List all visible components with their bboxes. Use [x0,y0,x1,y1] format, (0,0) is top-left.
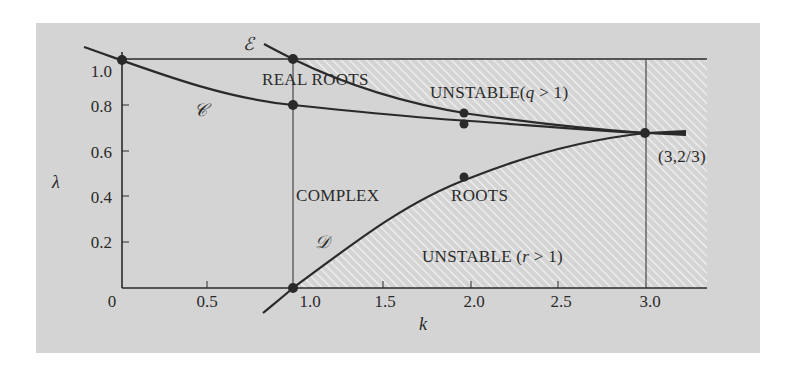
svg-text:0.5: 0.5 [196,292,217,311]
point-2-d [460,173,469,182]
point-1-1 [288,54,298,64]
svg-text:0: 0 [108,292,117,311]
svg-text:2.0: 2.0 [463,292,484,311]
roots-label: ROOTS [451,186,508,205]
point-1-08 [288,100,298,110]
svg-text:0.4: 0.4 [91,188,113,207]
point-0-1 [117,55,127,65]
svg-text:3.0: 3.0 [639,292,660,311]
curve-e-label: ℰ [243,34,256,54]
point-2-e [460,109,469,118]
y-tick-labels: 0.2 0.4 0.6 0.8 1.0 [91,62,113,252]
svg-text:1.0: 1.0 [91,62,112,81]
svg-text:0.8: 0.8 [91,97,112,116]
unstable-r-label: UNSTABLE (r > 1) [422,247,563,266]
svg-text:1.5: 1.5 [374,292,395,311]
y-axis-label: λ [51,172,60,192]
real-roots-label: REAL ROOTS [262,70,369,89]
point-3-two-thirds [640,128,650,138]
point-2-c [460,120,469,129]
curve-c-label: 𝒞 [194,100,212,120]
curve-d-label: 𝒟 [315,232,333,252]
complex-label: COMPLEX [296,186,379,205]
svg-text:0.6: 0.6 [91,143,112,162]
point-1-0 [288,283,298,293]
x-tick-labels: 0 0.5 1.0 1.5 2.0 2.5 3.0 [108,292,661,311]
stability-diagram: 0.2 0.4 0.6 0.8 1.0 0 0.5 1.0 1.5 2.0 2.… [0,0,790,370]
meeting-point-label: (3,2/3) [658,147,706,166]
unstable-q-label: UNSTABLE(q > 1) [430,83,568,102]
svg-text:1.0: 1.0 [299,292,320,311]
x-axis-label: k [419,314,428,334]
svg-text:0.2: 0.2 [91,233,112,252]
svg-text:2.5: 2.5 [550,292,571,311]
